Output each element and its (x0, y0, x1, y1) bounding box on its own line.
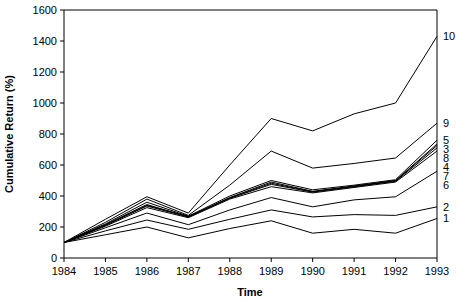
series-line-7 (64, 151, 437, 242)
series-end-label-6: 6 (443, 179, 449, 191)
series-end-label-1: 1 (443, 212, 449, 224)
y-tick-label-0: 0 (51, 252, 57, 264)
series-line-10 (64, 36, 437, 242)
x-tick-label-1992: 1992 (383, 265, 407, 277)
y-axis-title: Cumulative Return (%) (3, 75, 15, 193)
series-end-labels: 10953847621 (443, 30, 455, 224)
series-end-label-9: 9 (443, 117, 449, 129)
series-lines (64, 36, 437, 242)
x-tick-label-1993: 1993 (425, 265, 449, 277)
series-end-label-2: 2 (443, 201, 449, 213)
y-tick-label-1200: 1200 (33, 66, 57, 78)
series-end-label-10: 10 (443, 30, 455, 42)
x-tick-label-1991: 1991 (342, 265, 366, 277)
x-tick-label-1987: 1987 (176, 265, 200, 277)
x-tick-label-1986: 1986 (135, 265, 159, 277)
line-chart: 02004006008001000120014001600 1984198519… (0, 0, 467, 302)
y-tick-label-1000: 1000 (33, 97, 57, 109)
x-axis-tick-labels: 1984198519861987198819891990199119921993 (52, 265, 449, 277)
y-tick-label-800: 800 (39, 128, 57, 140)
y-tick-label-1600: 1600 (33, 4, 57, 16)
x-tick-label-1988: 1988 (218, 265, 242, 277)
series-line-4 (64, 148, 437, 243)
x-tick-label-1990: 1990 (300, 265, 324, 277)
chart-container: 02004006008001000120014001600 1984198519… (0, 0, 467, 302)
x-axis-title: Time (237, 286, 262, 298)
series-line-1 (64, 218, 437, 242)
axes (64, 10, 437, 258)
y-tick-label-400: 400 (39, 190, 57, 202)
y-tick-label-1400: 1400 (33, 35, 57, 47)
y-tick-label-600: 600 (39, 159, 57, 171)
x-tick-label-1984: 1984 (52, 265, 76, 277)
y-tick-label-200: 200 (39, 221, 57, 233)
y-axis-tick-labels: 02004006008001000120014001600 (33, 4, 57, 264)
x-tick-label-1989: 1989 (259, 265, 283, 277)
x-tick-label-1985: 1985 (93, 265, 117, 277)
